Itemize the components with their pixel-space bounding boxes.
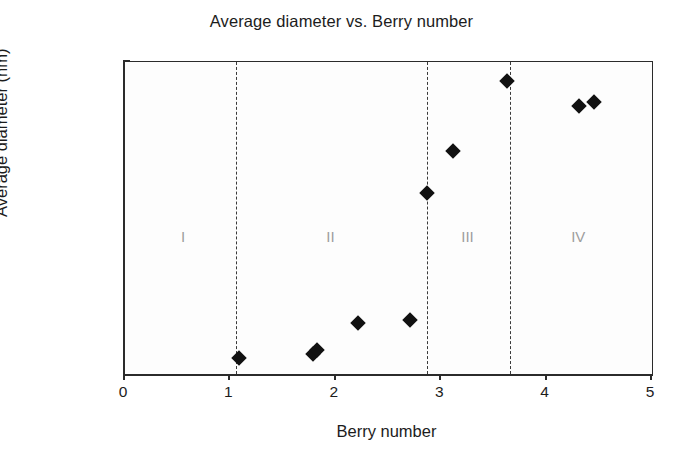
scatter-point bbox=[586, 94, 602, 110]
scatter-point bbox=[571, 98, 587, 114]
region-divider bbox=[427, 62, 428, 374]
x-axis-ticks: 012345 bbox=[0, 375, 683, 415]
x-tick-label: 1 bbox=[224, 383, 233, 401]
scatter-point bbox=[445, 144, 461, 160]
region-label: I bbox=[181, 228, 185, 245]
scatter-point bbox=[402, 312, 418, 328]
x-axis-label: Berry number bbox=[123, 422, 650, 441]
figure: Average diameter vs. Berry number Averag… bbox=[0, 0, 683, 457]
region-divider bbox=[510, 62, 511, 374]
scatter-point bbox=[420, 185, 436, 201]
scatter-point bbox=[231, 350, 247, 366]
x-tick-label: 0 bbox=[119, 383, 128, 401]
region-label: II bbox=[326, 228, 334, 245]
region-label: III bbox=[461, 228, 474, 245]
x-tick-label: 5 bbox=[646, 383, 655, 401]
x-tick-label: 4 bbox=[540, 383, 549, 401]
plot-area: IIIIIIIV bbox=[123, 61, 653, 376]
scatter-point bbox=[499, 73, 515, 89]
scatter-point bbox=[350, 315, 366, 331]
region-divider bbox=[236, 62, 237, 374]
x-tick-label: 2 bbox=[329, 383, 338, 401]
x-tick-label: 3 bbox=[435, 383, 444, 401]
region-label: IV bbox=[571, 228, 585, 245]
